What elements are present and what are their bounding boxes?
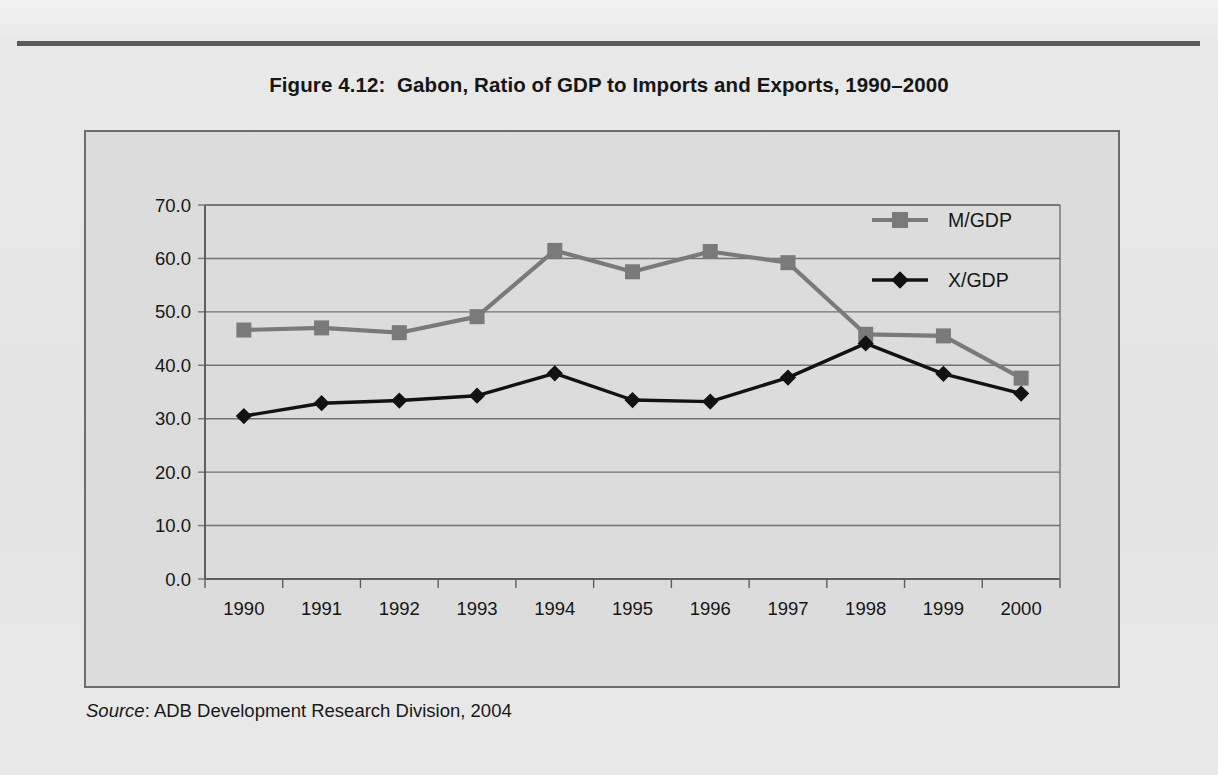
legend-swatch-marker (892, 212, 908, 228)
x-axis-tick-label: 1998 (845, 598, 886, 619)
legend-item-m-gdp: M/GDP (872, 209, 1012, 231)
legend-item-x-gdp: X/GDP (872, 269, 1009, 291)
data-point-marker (392, 325, 407, 340)
x-axis-tick-label: 1996 (690, 598, 731, 619)
x-axis-tick-label: 2000 (1001, 598, 1042, 619)
data-point-marker (470, 309, 485, 324)
data-point-marker (1014, 371, 1029, 386)
data-point-marker (391, 392, 407, 408)
chart-plot-container: 0.010.020.030.040.050.060.070.0199019911… (86, 132, 1122, 690)
x-axis-tick-label: 1992 (379, 598, 420, 619)
x-axis-tick-label: 1990 (223, 598, 264, 619)
data-point-marker (703, 244, 718, 259)
legend-label: X/GDP (948, 269, 1009, 291)
figure-title: Figure 4.12: Gabon, Ratio of GDP to Impo… (0, 73, 1218, 97)
data-point-marker (313, 395, 329, 411)
data-point-marker (469, 388, 485, 404)
x-axis-tick-label: 1995 (612, 598, 653, 619)
x-axis-tick-label: 1997 (767, 598, 808, 619)
figure-page: Figure 4.12: Gabon, Ratio of GDP to Impo… (0, 0, 1218, 775)
data-point-marker (780, 255, 795, 270)
data-point-marker (935, 366, 951, 382)
x-axis-group: 1990199119921993199419951996199719981999… (205, 579, 1060, 619)
y-axis-tick-label: 30.0 (155, 408, 191, 429)
data-point-marker (702, 393, 718, 409)
figure-panel: 0.010.020.030.040.050.060.070.0199019911… (84, 130, 1120, 688)
x-axis-tick-label: 1991 (301, 598, 342, 619)
data-point-marker (780, 369, 796, 385)
x-axis-tick-label: 1999 (923, 598, 964, 619)
data-point-marker (625, 264, 640, 279)
data-point-marker (1013, 385, 1029, 401)
y-axis-tick-label: 20.0 (155, 462, 191, 483)
y-axis-tick-label: 70.0 (155, 195, 191, 216)
x-axis-tick-label: 1993 (456, 598, 497, 619)
data-point-marker (547, 365, 563, 381)
data-point-marker (624, 392, 640, 408)
y-axis-tick-label: 10.0 (155, 515, 191, 536)
legend-swatch-marker (891, 271, 909, 289)
top-horizontal-rule (17, 41, 1200, 46)
chart-legend: M/GDPX/GDP (872, 209, 1012, 291)
source-text: ADB Development Research Division, 2004 (154, 700, 512, 721)
y-axis-tick-label: 0.0 (165, 569, 191, 590)
source-separator: : (145, 700, 154, 721)
line-chart: 0.010.020.030.040.050.060.070.0199019911… (86, 132, 1122, 690)
y-axis-tick-label: 60.0 (155, 248, 191, 269)
source-label: Source (86, 700, 145, 721)
series-m-gdp (236, 243, 1028, 386)
data-point-marker (936, 328, 951, 343)
data-point-marker (314, 320, 329, 335)
series-x-gdp (236, 335, 1030, 424)
y-axis-tick-label: 40.0 (155, 355, 191, 376)
data-point-marker (547, 243, 562, 258)
data-point-marker (236, 323, 251, 338)
legend-label: M/GDP (948, 209, 1012, 231)
data-point-marker (236, 408, 252, 424)
y-axis-tick-label: 50.0 (155, 301, 191, 322)
source-caption: Source: ADB Development Research Divisio… (86, 700, 512, 722)
x-axis-tick-label: 1994 (534, 598, 575, 619)
